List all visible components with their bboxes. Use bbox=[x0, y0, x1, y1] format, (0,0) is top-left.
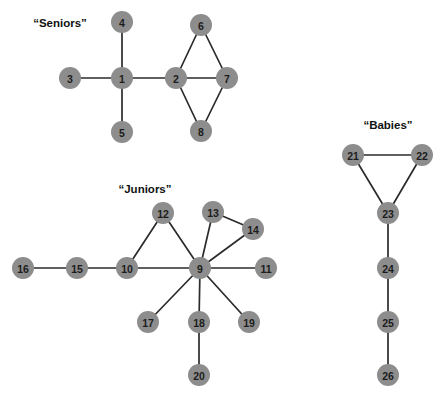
graph-node-19[interactable]: 19 bbox=[238, 311, 260, 333]
node-label: 5 bbox=[119, 127, 125, 139]
cluster-label-2: “Babies” bbox=[363, 119, 412, 131]
node-label: 19 bbox=[243, 317, 255, 329]
graph-node-11[interactable]: 11 bbox=[255, 257, 277, 279]
node-label: 24 bbox=[382, 263, 394, 275]
graph-node-7[interactable]: 7 bbox=[216, 67, 238, 89]
node-label: 14 bbox=[247, 224, 259, 236]
graph-node-22[interactable]: 22 bbox=[411, 144, 433, 166]
cluster-labels-layer: “Seniors”“Juniors”“Babies” bbox=[33, 17, 412, 195]
node-label: 8 bbox=[198, 126, 204, 138]
graph-node-2[interactable]: 2 bbox=[165, 67, 187, 89]
graph-node-8[interactable]: 8 bbox=[190, 120, 212, 142]
graph-node-1[interactable]: 1 bbox=[111, 67, 133, 89]
graph-node-17[interactable]: 17 bbox=[137, 311, 159, 333]
graph-node-9[interactable]: 9 bbox=[189, 257, 211, 279]
graph-node-12[interactable]: 12 bbox=[152, 202, 174, 224]
graph-node-26[interactable]: 26 bbox=[377, 364, 399, 386]
node-label: 11 bbox=[260, 263, 271, 275]
graph-node-16[interactable]: 16 bbox=[12, 257, 34, 279]
node-label: 16 bbox=[17, 263, 29, 275]
graph-node-14[interactable]: 14 bbox=[242, 218, 264, 240]
node-label: 10 bbox=[121, 263, 133, 275]
node-label: 22 bbox=[416, 150, 428, 162]
graph-node-10[interactable]: 10 bbox=[116, 257, 138, 279]
node-label: 21 bbox=[347, 150, 359, 162]
node-label: 20 bbox=[193, 370, 205, 382]
node-label: 7 bbox=[224, 73, 230, 85]
graph-node-21[interactable]: 21 bbox=[342, 144, 364, 166]
graph-node-15[interactable]: 15 bbox=[66, 257, 88, 279]
node-label: 4 bbox=[119, 17, 125, 29]
node-label: 15 bbox=[71, 263, 83, 275]
graph-node-13[interactable]: 13 bbox=[202, 201, 224, 223]
cluster-label-0: “Seniors” bbox=[33, 17, 87, 29]
graph-node-23[interactable]: 23 bbox=[377, 202, 399, 224]
node-label: 17 bbox=[142, 317, 154, 329]
graph-node-25[interactable]: 25 bbox=[377, 311, 399, 333]
graph-node-6[interactable]: 6 bbox=[190, 14, 212, 36]
graph-node-24[interactable]: 24 bbox=[377, 257, 399, 279]
graph-node-20[interactable]: 20 bbox=[188, 364, 210, 386]
node-label: 23 bbox=[382, 208, 394, 220]
graph-node-3[interactable]: 3 bbox=[59, 67, 81, 89]
graph-node-4[interactable]: 4 bbox=[111, 11, 133, 33]
node-label: 12 bbox=[157, 208, 169, 220]
node-label: 6 bbox=[198, 20, 204, 32]
graph-node-18[interactable]: 18 bbox=[188, 311, 210, 333]
node-label: 3 bbox=[67, 73, 73, 85]
node-label: 26 bbox=[382, 370, 394, 382]
graph-node-5[interactable]: 5 bbox=[111, 121, 133, 143]
network-diagram-canvas: 1234567891011121314151617181920212223242… bbox=[0, 0, 446, 396]
node-label: 9 bbox=[197, 263, 203, 275]
cluster-label-1: “Juniors” bbox=[118, 183, 171, 195]
node-label: 1 bbox=[119, 73, 125, 85]
node-label: 13 bbox=[207, 207, 219, 219]
social-network-graph: 1234567891011121314151617181920212223242… bbox=[0, 0, 446, 396]
node-label: 2 bbox=[173, 73, 179, 85]
node-label: 18 bbox=[193, 317, 205, 329]
node-label: 25 bbox=[382, 317, 394, 329]
